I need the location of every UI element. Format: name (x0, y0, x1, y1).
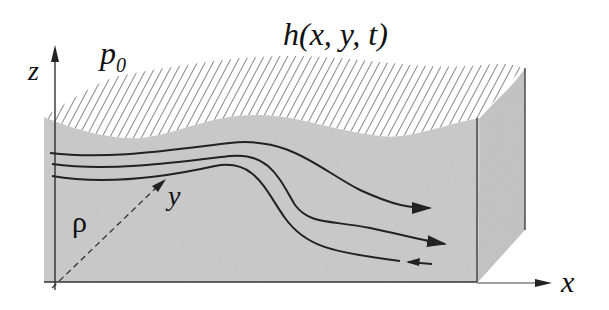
x-axis-arrowhead (535, 279, 552, 287)
fluid-diagram: z p0 h(x, y, t) y ρ x (0, 0, 609, 310)
label-x: x (560, 265, 575, 298)
fluid-front-face (44, 115, 480, 282)
label-y: y (165, 180, 181, 211)
label-density-rho: ρ (72, 205, 87, 238)
label-z: z (27, 55, 39, 86)
label-p0: p0 (98, 35, 126, 76)
z-axis-arrowhead (51, 45, 59, 62)
label-surface-height: h(x, y, t) (283, 16, 388, 52)
